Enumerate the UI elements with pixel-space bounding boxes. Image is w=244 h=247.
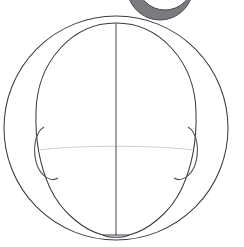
right-ear bbox=[174, 127, 197, 179]
diagram-svg bbox=[0, 0, 244, 247]
top-cropped-crescent-icon bbox=[127, 0, 193, 20]
head-construction-diagram bbox=[0, 0, 244, 247]
left-ear bbox=[35, 127, 58, 179]
